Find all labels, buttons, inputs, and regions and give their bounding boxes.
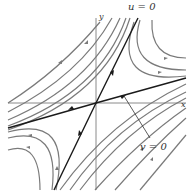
u-nullcline-label: u = 0 bbox=[128, 1, 156, 12]
phase-portrait bbox=[0, 0, 191, 196]
y-axis-label: y bbox=[99, 12, 104, 21]
separatrices bbox=[8, 18, 186, 190]
trajectories bbox=[8, 18, 186, 190]
v-nullcline-label: v = 0 bbox=[140, 141, 167, 152]
x-axis-label: x bbox=[181, 100, 186, 109]
v-leader-line bbox=[124, 96, 150, 138]
